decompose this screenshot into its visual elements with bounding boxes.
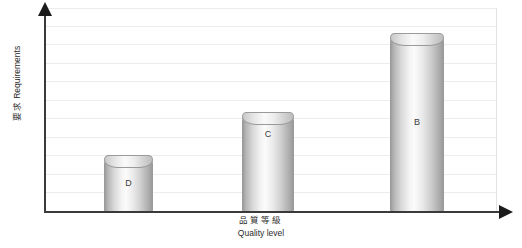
bar-label-d: D	[105, 178, 152, 188]
gridline	[45, 8, 496, 9]
bar-b: B	[390, 33, 444, 212]
bar-c: C	[242, 112, 294, 212]
bar-top-cap	[242, 112, 294, 125]
bar-chart: D C B 要求 Requirements 品質等級 Quality level	[0, 0, 522, 248]
y-axis-title-en: Requirements	[12, 46, 22, 99]
bar-label-b: B	[391, 117, 443, 127]
x-axis-title: 品質等級 Quality level	[0, 214, 522, 240]
x-axis-title-cjk: 品質等級	[0, 214, 522, 227]
x-axis-title-en: Quality level	[0, 227, 522, 240]
y-axis-line	[44, 14, 46, 213]
bar-top-cap	[390, 33, 444, 46]
y-axis-arrow-icon	[38, 2, 52, 16]
bar-top-cap	[104, 155, 153, 168]
bar-d: D	[104, 155, 153, 212]
bar-label-c: C	[243, 129, 293, 139]
x-axis-line	[45, 211, 501, 213]
y-axis-title: 要求 Requirements	[12, 24, 23, 144]
gridline	[45, 26, 496, 27]
y-axis-title-cjk: 要求	[12, 101, 22, 121]
